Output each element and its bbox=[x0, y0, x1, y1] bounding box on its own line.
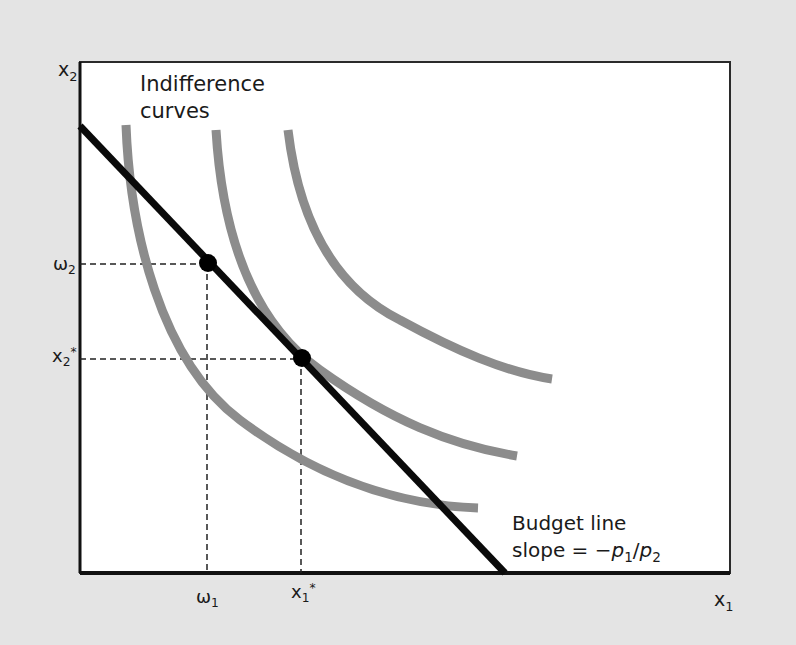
endowment-point bbox=[199, 254, 217, 272]
omega1-tick-label: ω1 bbox=[196, 588, 219, 610]
budget-slope-label: slope = −p1/p2 bbox=[512, 540, 661, 564]
diagram-canvas: x2 x1 Indifference curves ω2 x2* ω1 x1* … bbox=[0, 0, 796, 645]
omega2-tick-label: ω2 bbox=[53, 255, 76, 277]
diagram-svg bbox=[0, 0, 796, 645]
y-axis-label: x2 bbox=[58, 60, 77, 83]
optimal-choice-point bbox=[293, 349, 311, 367]
indifference-curves-label-line2: curves bbox=[140, 101, 210, 122]
indifference-curves-label-line1: Indifference bbox=[140, 74, 265, 95]
x-axis-label: x1 bbox=[714, 590, 733, 613]
x2star-tick-label: x2* bbox=[52, 346, 77, 369]
x1star-tick-label: x1* bbox=[291, 582, 316, 605]
budget-line-label: Budget line bbox=[512, 513, 626, 533]
